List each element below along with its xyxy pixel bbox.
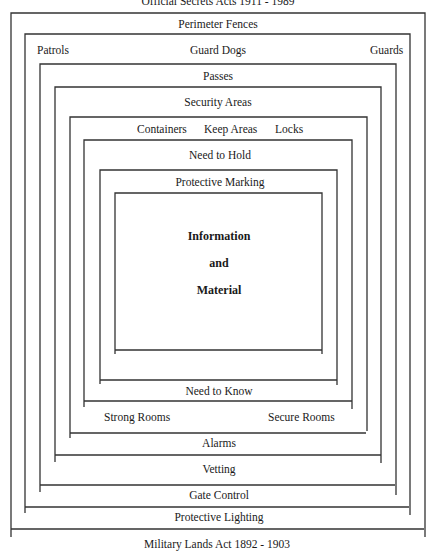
label-perimeter-fences: Perimeter Fences <box>178 17 258 31</box>
layer-8-border <box>115 193 322 354</box>
label-secure-rooms: Secure Rooms <box>268 410 335 424</box>
label-alarms: Alarms <box>202 436 236 450</box>
label-vetting: Vetting <box>202 462 235 476</box>
label-containers: Containers <box>137 122 187 136</box>
title-bottom: Military Lands Act 1892 - 1903 <box>144 537 290 551</box>
layer-4-border <box>55 87 381 463</box>
label-locks: Locks <box>275 122 303 136</box>
label-need-to-hold: Need to Hold <box>189 148 251 162</box>
layer-7-border <box>100 170 337 385</box>
label-guard-dogs: Guard Dogs <box>190 43 246 57</box>
label-security-areas: Security Areas <box>184 95 251 109</box>
label-information: Information <box>188 229 251 243</box>
label-guards: Guards <box>370 43 403 57</box>
label-passes: Passes <box>203 69 233 83</box>
label-patrols: Patrols <box>37 43 69 57</box>
label-protective-marking: Protective Marking <box>175 175 264 189</box>
label-gate-control: Gate Control <box>189 488 249 502</box>
layer-1-border <box>11 13 425 537</box>
label-material: Material <box>197 283 242 297</box>
label-need-to-know: Need to Know <box>185 384 252 398</box>
title-top: Official Secrets Acts 1911 - 1989 <box>142 0 295 8</box>
label-and: and <box>209 256 228 270</box>
label-protective-lighting: Protective Lighting <box>174 510 263 524</box>
label-strong-rooms: Strong Rooms <box>104 410 170 424</box>
label-keep-areas: Keep Areas <box>204 122 257 136</box>
